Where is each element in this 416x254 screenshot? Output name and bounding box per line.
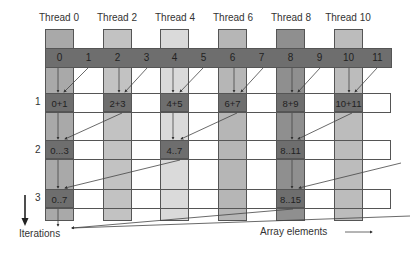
iterations-label: Iterations — [19, 228, 60, 239]
iterations-arrow-icon — [22, 195, 29, 226]
reduction-arrows — [0, 0, 416, 254]
array-elements-label: Array elements — [260, 226, 327, 237]
